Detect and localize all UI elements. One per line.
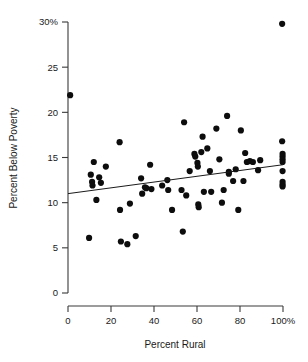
x-tick-label-60: 60 xyxy=(192,315,203,326)
data-points xyxy=(67,21,286,248)
data-point xyxy=(86,235,92,241)
x-axis: 020406080100% xyxy=(65,306,295,326)
data-point xyxy=(279,183,285,189)
data-point xyxy=(143,185,149,191)
data-point xyxy=(240,178,246,184)
data-point xyxy=(118,238,124,244)
data-point xyxy=(89,182,95,188)
data-point xyxy=(238,127,244,133)
y-axis-tick-labels: 051015202530% xyxy=(39,16,59,298)
data-point xyxy=(159,182,165,188)
data-point xyxy=(195,163,201,169)
data-point xyxy=(279,159,285,165)
x-tick-label-20: 20 xyxy=(106,315,117,326)
x-tick-label-40: 40 xyxy=(149,315,160,326)
x-axis-tick-marks xyxy=(68,306,283,312)
scatter-plot-figure: 051015202530% 020406080100% Percent Rura… xyxy=(0,0,308,362)
plot-canvas: 051015202530% 020406080100% Percent Rura… xyxy=(0,0,308,362)
data-point xyxy=(279,168,285,174)
y-axis: 051015202530% xyxy=(39,16,68,298)
data-point xyxy=(67,92,73,98)
data-point xyxy=(199,134,205,140)
data-point xyxy=(208,189,214,195)
data-point xyxy=(124,241,130,247)
data-point xyxy=(147,162,153,168)
data-point xyxy=(242,150,248,156)
data-point xyxy=(198,149,204,155)
data-point xyxy=(213,125,219,131)
data-point xyxy=(183,192,189,198)
data-point xyxy=(139,191,145,197)
x-tick-label-0: 0 xyxy=(65,315,70,326)
data-point xyxy=(224,113,230,119)
data-point xyxy=(187,168,193,174)
data-point xyxy=(98,180,104,186)
x-tick-label-80: 80 xyxy=(235,315,246,326)
data-point xyxy=(117,139,123,145)
x-tick-label-100: 100% xyxy=(271,315,296,326)
data-point xyxy=(201,189,207,195)
data-point xyxy=(165,187,171,193)
data-point xyxy=(96,174,102,180)
y-tick-label-5: 5 xyxy=(53,242,58,253)
data-point xyxy=(257,157,263,163)
y-tick-label-0: 0 xyxy=(53,287,58,298)
data-point xyxy=(219,200,225,206)
data-point xyxy=(117,207,123,213)
data-point xyxy=(196,204,202,210)
x-axis-title: Percent Rural xyxy=(144,339,205,350)
data-point xyxy=(230,178,236,184)
y-tick-label-10: 10 xyxy=(47,197,58,208)
data-point xyxy=(103,163,109,169)
data-point xyxy=(178,187,184,193)
data-point xyxy=(180,228,186,234)
y-axis-title: Percent Below Poverty xyxy=(8,107,19,208)
data-point xyxy=(216,156,222,162)
data-point xyxy=(169,207,175,213)
data-point xyxy=(279,21,285,27)
data-point xyxy=(88,172,94,178)
data-point xyxy=(91,159,97,165)
data-point xyxy=(207,168,213,174)
data-point xyxy=(138,175,144,181)
data-point xyxy=(235,207,241,213)
y-axis-tick-marks xyxy=(62,22,68,293)
data-point xyxy=(127,200,133,206)
data-point xyxy=(192,153,198,159)
data-point xyxy=(250,159,256,165)
y-tick-label-25: 25 xyxy=(47,62,58,73)
y-tick-label-15: 15 xyxy=(47,152,58,163)
data-point xyxy=(221,187,227,193)
data-point xyxy=(181,119,187,125)
data-point xyxy=(133,233,139,239)
y-tick-label-30: 30% xyxy=(39,16,59,27)
data-point xyxy=(279,138,285,144)
data-point xyxy=(204,145,210,151)
data-point xyxy=(93,197,99,203)
x-axis-tick-labels: 020406080100% xyxy=(65,315,295,326)
y-tick-label-20: 20 xyxy=(47,107,58,118)
data-point xyxy=(148,186,154,192)
